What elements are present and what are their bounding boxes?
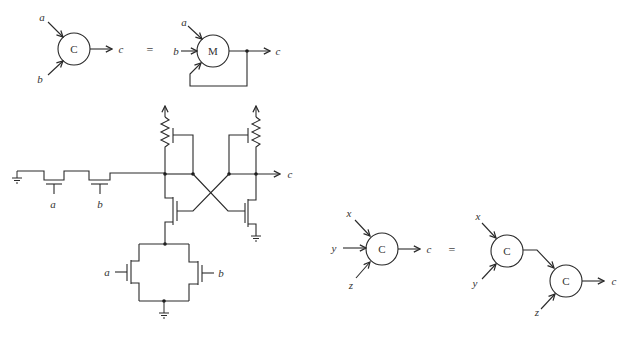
cascade-connection-arrow <box>523 250 554 268</box>
input-label-b: b <box>173 45 179 57</box>
input-arrow-x <box>482 223 496 238</box>
input-label-x: x <box>346 207 352 219</box>
m-gate-label: M <box>208 45 218 57</box>
series-gate-label-b: b <box>97 198 103 210</box>
input-label-a: a <box>39 11 45 23</box>
parallel-gate-label-a: a <box>104 266 110 278</box>
first-c-gate-label: C <box>503 245 510 257</box>
input-label-y: y <box>331 242 337 254</box>
resistor-right <box>252 117 260 174</box>
output-label-c: c <box>427 243 432 255</box>
drain-wire <box>131 244 139 261</box>
drain-wire <box>248 174 256 200</box>
cross-coupled-nmos-left <box>165 174 177 244</box>
output-label-c: c <box>119 43 124 55</box>
ground-symbol-left <box>12 171 22 183</box>
input-label-z: z <box>534 306 540 318</box>
pullup-right <box>229 106 260 174</box>
input-arrow-z <box>541 294 555 309</box>
series-chain-wire <box>17 171 165 180</box>
input-label-y: y <box>472 277 478 289</box>
source-wire <box>131 283 139 301</box>
series-transistor-a <box>46 184 62 194</box>
input-arrow-x <box>355 220 370 236</box>
input-arrow-b <box>48 61 63 75</box>
input-label-b: b <box>37 73 43 85</box>
ground-symbol-right <box>251 236 261 241</box>
cross-coupled-nmos-right <box>245 174 261 241</box>
drain-wire <box>189 244 198 262</box>
equals-sign-bottom: = <box>449 243 456 257</box>
series-transistor-b <box>91 184 108 194</box>
drain-wire <box>165 174 173 198</box>
source-wire <box>189 284 198 301</box>
cross-wire-1 <box>193 174 245 211</box>
output-label-c: c <box>276 45 281 57</box>
resistor-left <box>161 117 169 174</box>
c-gate-cascade: C x y C z c <box>472 210 617 318</box>
cross-wire-2 <box>177 174 229 211</box>
diagram-canvas: C a b c = M a b c <box>0 0 631 337</box>
input-arrow-y <box>482 264 496 279</box>
parallel-nmos-b <box>189 244 214 301</box>
second-c-gate-label: C <box>562 275 569 287</box>
c-gate-three-input: C x y z c <box>331 207 432 291</box>
input-arrow-a <box>48 22 63 37</box>
ground-symbol-bottom <box>159 301 169 318</box>
circuit-output-label-c: c <box>288 168 293 180</box>
series-gate-label-a: a <box>50 198 56 210</box>
source-wire <box>248 224 256 236</box>
c-gate-label: C <box>378 243 385 255</box>
input-label-z: z <box>348 279 354 291</box>
output-label-c: c <box>612 275 617 287</box>
m-gate-with-feedback: M a b c <box>173 16 280 86</box>
input-label-a: a <box>181 16 187 28</box>
parallel-gate-label-b: b <box>218 267 224 279</box>
input-label-x: x <box>475 210 481 222</box>
c-gate-two-input: C a b c <box>37 11 123 85</box>
input-arrow-z <box>356 262 370 278</box>
feedback-gate-wire-right <box>229 135 248 174</box>
parallel-nmos-a <box>115 244 139 301</box>
input-arrow-a <box>188 26 202 39</box>
equals-sign-top: = <box>147 43 154 57</box>
feedback-gate-wire-left <box>173 135 193 174</box>
pullup-left <box>161 106 193 174</box>
source-wire <box>165 222 173 244</box>
c-element-transistor-circuit: a b c <box>12 106 293 318</box>
c-gate-label: C <box>70 43 77 55</box>
feedback-loop <box>190 51 247 86</box>
